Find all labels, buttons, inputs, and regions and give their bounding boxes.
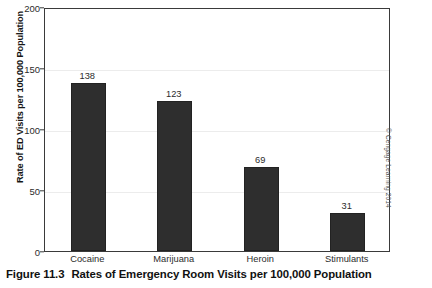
y-tick-label: 50 [0, 186, 40, 197]
figure-title: Rates of Emergency Room Visits per 100,0… [71, 268, 371, 280]
copyright-credit: © Cengage Learning 2014 [385, 128, 392, 208]
y-tick-label: 0 [0, 247, 40, 258]
x-tick-label: Cocaine [42, 254, 132, 264]
y-tick-label: 200 [0, 3, 40, 14]
bar [71, 83, 106, 251]
bar [157, 101, 192, 251]
bar-value-label: 123 [144, 89, 204, 99]
figure-11-3: Rate of ED Visits per 100,000 Population… [0, 0, 432, 288]
bar-value-label: 138 [57, 71, 117, 81]
bar-value-label: 69 [230, 155, 290, 165]
y-axis-label: Rate of ED Visits per 100,000 Population [15, 0, 25, 203]
y-tick-label: 150 [0, 64, 40, 75]
figure-caption: Figure 11.3Rates of Emergency Room Visit… [6, 268, 372, 280]
figure-number: Figure 11.3 [6, 268, 64, 280]
y-tick-label: 100 [0, 125, 40, 136]
bar-chart: Rate of ED Visits per 100,000 Population… [0, 0, 432, 262]
x-tick-label: Stimulants [302, 254, 392, 264]
bar-value-label: 31 [317, 201, 377, 211]
x-tick-label: Marijuana [129, 254, 219, 264]
x-tick-label: Heroin [215, 254, 305, 264]
bar [244, 167, 279, 251]
bar [330, 213, 365, 251]
plot-area [44, 8, 390, 252]
